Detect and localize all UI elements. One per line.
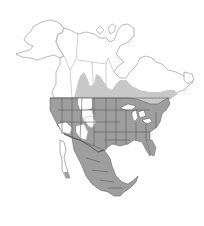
arctic-islands-outline (96, 24, 116, 34)
west-gap-1 (78, 98, 92, 110)
north-america-map (0, 0, 204, 226)
range-map (0, 0, 204, 226)
